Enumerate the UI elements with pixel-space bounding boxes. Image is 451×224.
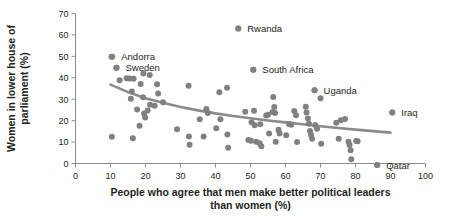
x-tick-label: 10 [105, 171, 115, 181]
data-point [137, 123, 143, 129]
data-point [155, 90, 161, 96]
x-tick-label: 60 [280, 171, 290, 181]
data-point [242, 109, 248, 115]
annotated-data-point [113, 65, 119, 71]
data-point [201, 134, 207, 140]
data-point [257, 121, 263, 127]
y-tick-label: 60 [58, 30, 68, 40]
data-point [186, 134, 192, 140]
data-points [109, 26, 396, 169]
data-point [187, 142, 193, 148]
data-point [294, 139, 300, 145]
data-point [140, 94, 146, 100]
data-point [213, 125, 219, 131]
annotated-data-point [250, 67, 256, 73]
data-point [128, 96, 134, 102]
data-point [205, 110, 211, 116]
annotated-data-point [312, 87, 318, 93]
x-tick-label: 70 [315, 171, 325, 181]
data-point [272, 110, 278, 116]
y-tick-label: 10 [58, 137, 68, 147]
data-point [160, 99, 166, 105]
data-point [248, 138, 254, 144]
annotation-label: Iraq [401, 107, 417, 118]
data-point [130, 135, 136, 141]
data-point [293, 112, 299, 118]
x-tick-label: 30 [175, 171, 185, 181]
data-point [224, 132, 230, 138]
annotation-label: Rwanda [247, 23, 283, 34]
annotated-data-point [109, 54, 115, 60]
data-point [277, 131, 283, 137]
data-point [224, 85, 230, 91]
y-tick-label: 70 [58, 9, 68, 19]
annotation-label: Andorra [121, 51, 156, 62]
y-tick-label: 0 [63, 159, 68, 169]
x-axis-title-line2: than women (%) [210, 199, 291, 211]
data-point [355, 138, 361, 144]
data-point [129, 89, 135, 95]
data-point [197, 116, 203, 122]
x-tick-label: 80 [350, 171, 360, 181]
data-point [309, 136, 315, 142]
data-point [152, 103, 158, 109]
data-point [131, 76, 137, 82]
y-tick-label: 40 [58, 73, 68, 83]
data-point [134, 107, 140, 113]
y-axis-title-line2: parliament (%) [18, 52, 30, 124]
annotated-data-point [235, 26, 241, 32]
data-point [283, 132, 289, 138]
annotation-label: South Africa [262, 64, 314, 75]
data-point [273, 139, 279, 145]
data-point [186, 83, 192, 89]
x-tick-label: 100 [418, 171, 433, 181]
data-point [348, 147, 354, 153]
data-point [109, 134, 115, 140]
annotation-label: Qatar [386, 160, 410, 171]
data-point [305, 116, 311, 122]
data-point [258, 143, 264, 149]
point-annotations: RwandaAndorraSwedenSouth AfricaUgandaIra… [109, 23, 417, 171]
annotation-label: Sweden [125, 62, 159, 73]
annotated-data-point [389, 110, 395, 116]
chart-plot-area: 010203040506070 0102030405060708090100 R… [0, 0, 451, 224]
data-point [266, 131, 272, 137]
data-point [347, 142, 353, 148]
x-axis-title-line1: People who agree that men make better po… [110, 186, 390, 198]
annotated-data-point [374, 162, 380, 168]
data-point [306, 121, 312, 127]
data-point [318, 95, 324, 101]
data-point [348, 156, 354, 162]
data-point [225, 145, 231, 151]
y-axis-title-line1: Women in lower house of [5, 25, 17, 152]
data-point [142, 114, 148, 120]
data-point [336, 136, 342, 142]
data-point [145, 108, 151, 114]
y-axis-ticks: 010203040506070 [58, 9, 75, 169]
data-point [217, 116, 223, 122]
data-point [304, 110, 310, 116]
data-point [271, 104, 277, 110]
scatter-chart: 010203040506070 0102030405060708090100 R… [0, 0, 451, 224]
data-point [117, 77, 123, 83]
data-point [174, 126, 180, 132]
data-point [138, 81, 144, 87]
data-point [318, 141, 324, 147]
x-tick-label: 20 [140, 171, 150, 181]
data-point [154, 81, 160, 87]
data-point [216, 89, 222, 95]
x-tick-label: 40 [210, 171, 220, 181]
x-tick-label: 50 [245, 171, 255, 181]
x-tick-label: 0 [73, 171, 78, 181]
data-point [303, 104, 309, 110]
data-point [251, 108, 257, 114]
y-tick-label: 50 [58, 52, 68, 62]
y-tick-label: 30 [58, 95, 68, 105]
data-point [342, 116, 348, 122]
data-point [252, 122, 258, 128]
x-tick-label: 90 [385, 171, 395, 181]
data-point [314, 126, 320, 132]
y-tick-label: 20 [58, 116, 68, 126]
data-point [270, 94, 276, 100]
data-point [288, 122, 294, 128]
